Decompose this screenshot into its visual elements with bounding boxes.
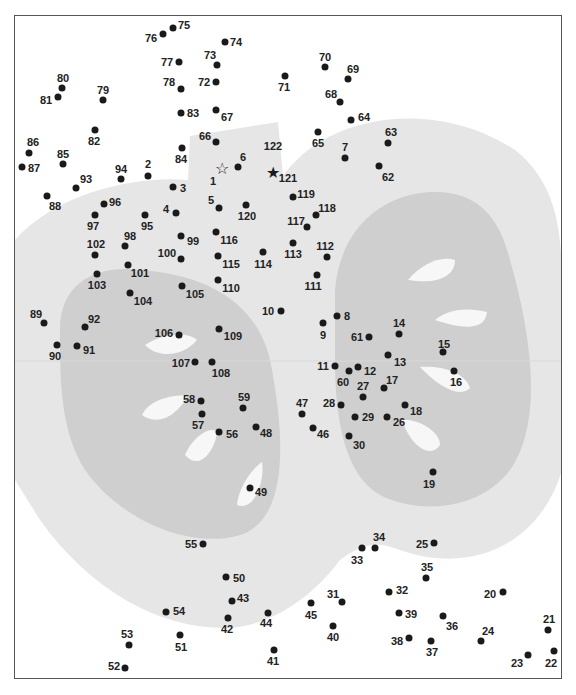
puzzle-dot-66[interactable]: [213, 139, 220, 146]
puzzle-dot-6[interactable]: [235, 164, 242, 171]
puzzle-dot-112[interactable]: [324, 254, 331, 261]
puzzle-dot-83[interactable]: [178, 110, 185, 117]
puzzle-dot-56[interactable]: [216, 429, 223, 436]
puzzle-dot-76[interactable]: [160, 31, 167, 38]
puzzle-dot-93[interactable]: [73, 185, 80, 192]
puzzle-dot-3[interactable]: [170, 184, 177, 191]
puzzle-dot-98[interactable]: [122, 243, 129, 250]
puzzle-dot-111[interactable]: [314, 272, 321, 279]
puzzle-dot-16[interactable]: [451, 368, 458, 375]
puzzle-dot-7[interactable]: [342, 155, 349, 162]
puzzle-dot-59[interactable]: [240, 405, 247, 412]
puzzle-dot-45[interactable]: [308, 600, 315, 607]
puzzle-dot-31[interactable]: [339, 599, 346, 606]
puzzle-dot-65[interactable]: [315, 129, 322, 136]
puzzle-dot-62[interactable]: [376, 163, 383, 170]
puzzle-dot-94[interactable]: [118, 176, 125, 183]
puzzle-dot-79[interactable]: [100, 97, 107, 104]
puzzle-dot-84[interactable]: [179, 145, 186, 152]
puzzle-dot-20[interactable]: [500, 589, 507, 596]
puzzle-dot-68[interactable]: [337, 99, 344, 106]
puzzle-dot-95[interactable]: [142, 212, 149, 219]
puzzle-dot-58[interactable]: [198, 398, 205, 405]
puzzle-dot-48[interactable]: [253, 424, 260, 431]
puzzle-dot-29[interactable]: [352, 414, 359, 421]
puzzle-dot-106[interactable]: [176, 332, 183, 339]
puzzle-dot-86[interactable]: [26, 150, 33, 157]
puzzle-dot-33[interactable]: [359, 545, 366, 552]
puzzle-dot-110[interactable]: [215, 277, 222, 284]
puzzle-dot-61[interactable]: [366, 334, 373, 341]
puzzle-dot-25[interactable]: [431, 540, 438, 547]
puzzle-dot-22[interactable]: [551, 648, 558, 655]
puzzle-dot-15[interactable]: [440, 349, 447, 356]
puzzle-dot-57[interactable]: [199, 411, 206, 418]
puzzle-dot-107[interactable]: [192, 359, 199, 366]
puzzle-dot-21[interactable]: [545, 627, 552, 634]
puzzle-dot-69[interactable]: [345, 76, 352, 83]
puzzle-dot-19[interactable]: [430, 469, 437, 476]
puzzle-dot-37[interactable]: [428, 638, 435, 645]
puzzle-dot-50[interactable]: [223, 574, 230, 581]
puzzle-dot-30[interactable]: [346, 433, 353, 440]
puzzle-dot-73[interactable]: [214, 62, 221, 69]
puzzle-dot-53[interactable]: [126, 642, 133, 649]
puzzle-dot-24[interactable]: [478, 638, 485, 645]
puzzle-dot-114[interactable]: [260, 249, 267, 256]
puzzle-dot-32[interactable]: [386, 589, 393, 596]
puzzle-dot-81[interactable]: [55, 94, 62, 101]
puzzle-dot-91[interactable]: [74, 343, 81, 350]
puzzle-dot-113[interactable]: [290, 240, 297, 247]
puzzle-dot-43[interactable]: [229, 598, 236, 605]
puzzle-dot-8[interactable]: [334, 313, 341, 320]
puzzle-dot-5[interactable]: [216, 205, 223, 212]
puzzle-dot-10[interactable]: [278, 308, 285, 315]
puzzle-dot-109[interactable]: [216, 326, 223, 333]
puzzle-dot-60[interactable]: [346, 368, 353, 375]
puzzle-dot-23[interactable]: [525, 652, 532, 659]
puzzle-dot-119[interactable]: [290, 194, 297, 201]
puzzle-dot-82[interactable]: [92, 127, 99, 134]
puzzle-dot-99[interactable]: [178, 233, 185, 240]
puzzle-dot-44[interactable]: [265, 610, 272, 617]
puzzle-dot-63[interactable]: [385, 140, 392, 147]
puzzle-dot-96[interactable]: [101, 201, 108, 208]
puzzle-dot-103[interactable]: [94, 271, 101, 278]
puzzle-dot-47[interactable]: [299, 411, 306, 418]
puzzle-dot-102[interactable]: [92, 252, 99, 259]
puzzle-dot-55[interactable]: [200, 541, 207, 548]
puzzle-dot-74[interactable]: [222, 39, 229, 46]
puzzle-dot-70[interactable]: [322, 64, 329, 71]
puzzle-dot-39[interactable]: [396, 610, 403, 617]
puzzle-dot-2[interactable]: [145, 173, 152, 180]
puzzle-dot-88[interactable]: [44, 193, 51, 200]
puzzle-dot-104[interactable]: [127, 290, 134, 297]
puzzle-dot-17[interactable]: [381, 385, 388, 392]
puzzle-dot-78[interactable]: [178, 86, 185, 93]
puzzle-dot-26[interactable]: [384, 414, 391, 421]
puzzle-dot-36[interactable]: [440, 613, 447, 620]
puzzle-dot-46[interactable]: [310, 425, 317, 432]
puzzle-dot-42[interactable]: [225, 615, 232, 622]
puzzle-dot-9[interactable]: [320, 320, 327, 327]
puzzle-dot-71[interactable]: [282, 73, 289, 80]
puzzle-dot-41[interactable]: [271, 647, 278, 654]
puzzle-dot-100[interactable]: [178, 256, 185, 263]
puzzle-dot-4[interactable]: [173, 210, 180, 217]
start-star-icon[interactable]: ☆: [215, 161, 229, 177]
puzzle-dot-92[interactable]: [82, 324, 89, 331]
puzzle-dot-49[interactable]: [247, 485, 254, 492]
puzzle-dot-14[interactable]: [396, 331, 403, 338]
puzzle-dot-35[interactable]: [423, 575, 430, 582]
puzzle-dot-12[interactable]: [355, 364, 362, 371]
puzzle-dot-87[interactable]: [19, 164, 26, 171]
puzzle-dot-27[interactable]: [360, 394, 367, 401]
puzzle-dot-38[interactable]: [406, 635, 413, 642]
puzzle-dot-72[interactable]: [213, 79, 220, 86]
puzzle-dot-116[interactable]: [213, 229, 220, 236]
puzzle-dot-54[interactable]: [163, 609, 170, 616]
puzzle-dot-75[interactable]: [170, 25, 177, 32]
puzzle-dot-108[interactable]: [209, 359, 216, 366]
puzzle-dot-105[interactable]: [179, 283, 186, 290]
puzzle-dot-80[interactable]: [59, 85, 66, 92]
